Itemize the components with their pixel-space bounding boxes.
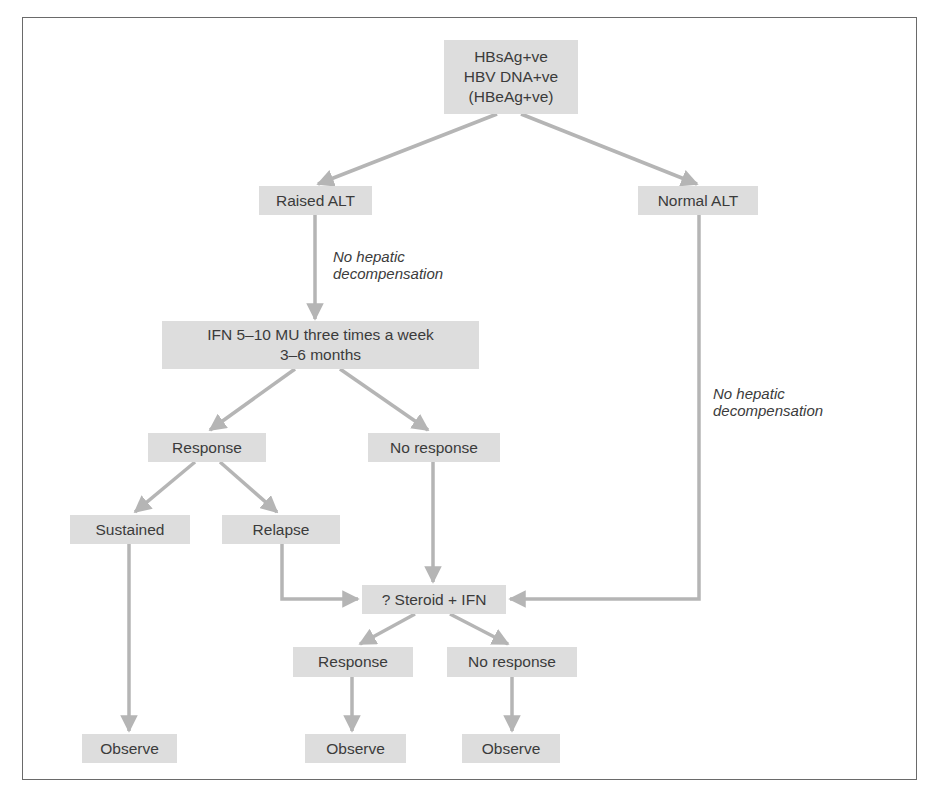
node-steroid-ifn: ? Steroid + IFN xyxy=(362,585,506,614)
node-ifn-therapy: IFN 5–10 MU three times a week 3–6 month… xyxy=(162,321,479,369)
edge-label-right-no-decompensation: No hepatic decompensation xyxy=(713,385,823,419)
node-response-2: Response xyxy=(293,647,413,677)
node-no-response-2: No response xyxy=(447,647,577,677)
node-relapse: Relapse xyxy=(222,515,340,544)
node-observe-3: Observe xyxy=(462,734,560,763)
node-observe-2: Observe xyxy=(305,734,406,763)
node-response: Response xyxy=(148,433,266,462)
node-normal-alt: Normal ALT xyxy=(638,186,758,215)
node-sustained: Sustained xyxy=(70,515,190,544)
node-raised-alt: Raised ALT xyxy=(259,186,372,215)
edge-label-left-no-decompensation: No hepatic decompensation xyxy=(333,248,443,282)
node-hbsag-positive: HBsAg+ve HBV DNA+ve (HBeAg+ve) xyxy=(444,40,578,114)
node-no-response: No response xyxy=(368,433,500,462)
node-observe-1: Observe xyxy=(82,734,177,763)
